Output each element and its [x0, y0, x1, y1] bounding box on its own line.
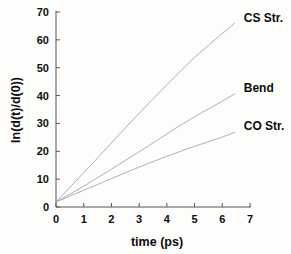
- y-axis-ticks: [56, 12, 60, 207]
- x-tick-label: 5: [192, 213, 198, 225]
- x-axis-title: time (ps): [131, 235, 183, 249]
- series-line-co-str: [56, 132, 235, 202]
- x-tick-label: 7: [247, 213, 253, 225]
- series-label-cs-str: CS Str.: [244, 11, 283, 25]
- y-tick-label: 20: [37, 145, 49, 157]
- y-axis-title: ln(d(t)/d(0)): [9, 77, 23, 143]
- series-line-cs-str: [56, 23, 235, 202]
- x-tick-label: 2: [108, 213, 114, 225]
- x-tick-label: 6: [219, 213, 225, 225]
- series-label-bend: Bend: [244, 81, 274, 95]
- x-axis-tick-labels: 01234567: [53, 213, 253, 225]
- series-label-co-str: CO Str.: [244, 119, 285, 133]
- y-tick-label: 30: [37, 117, 49, 129]
- x-tick-label: 0: [53, 213, 59, 225]
- x-tick-label: 1: [81, 213, 87, 225]
- series-line-bend: [56, 94, 235, 202]
- y-tick-label: 70: [37, 6, 49, 18]
- chart-canvas: 010203040506070 01234567 CS Str. Bend CO…: [0, 0, 291, 254]
- y-tick-label: 50: [37, 62, 49, 74]
- x-axis-ticks: [56, 203, 250, 207]
- line-chart: 010203040506070 01234567 CS Str. Bend CO…: [0, 0, 291, 254]
- y-tick-label: 0: [43, 201, 49, 213]
- y-tick-label: 60: [37, 34, 49, 46]
- series-curves: [56, 23, 235, 202]
- x-tick-label: 4: [164, 213, 171, 225]
- y-tick-label: 10: [37, 173, 49, 185]
- x-tick-label: 3: [136, 213, 142, 225]
- y-axis-tick-labels: 010203040506070: [37, 6, 49, 213]
- y-tick-label: 40: [37, 90, 49, 102]
